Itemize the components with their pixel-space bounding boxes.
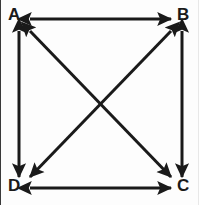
- vertex-label-d: D: [8, 177, 20, 194]
- graph-canvas: [1, 0, 199, 205]
- vertex-label-a: A: [8, 6, 20, 23]
- graph-diagram: A B C D: [0, 0, 199, 205]
- vertex-label-c: C: [177, 177, 189, 194]
- vertex-label-b: B: [177, 6, 189, 23]
